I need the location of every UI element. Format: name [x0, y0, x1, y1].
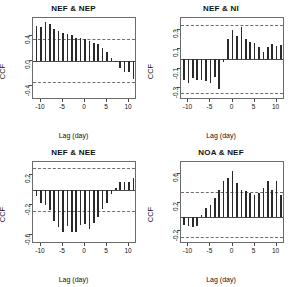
ccf-bar	[205, 59, 207, 81]
ccf-bar	[71, 35, 73, 61]
x-axis-label: Lag (day)	[148, 132, 295, 139]
ccf-bar	[89, 41, 91, 61]
y-axis-tick-label: -0.2	[152, 226, 176, 234]
y-axis-tick-label: 0.3	[152, 25, 176, 33]
ccf-bar	[196, 217, 198, 226]
ccf-bar	[67, 34, 69, 60]
ccf-bar	[58, 31, 60, 61]
plot-area	[32, 17, 136, 99]
ccf-bar	[196, 59, 198, 80]
ccf-bar	[45, 190, 47, 206]
x-axis-tick-label: 10	[118, 103, 138, 110]
ccf-bar	[45, 22, 47, 61]
x-axis-tick	[62, 99, 63, 102]
x-axis-tick-label: 5	[96, 103, 116, 110]
x-axis-tick	[276, 243, 277, 246]
y-axis-tick-label: 0.4	[4, 31, 28, 39]
ccf-bar	[84, 39, 86, 61]
bar-series	[33, 162, 135, 242]
y-axis-tick-label: -0.2	[4, 200, 28, 208]
x-axis-tick	[84, 99, 85, 102]
x-axis-tick-label: -5	[52, 103, 72, 110]
ccf-bar	[236, 183, 238, 216]
ccf-bar	[53, 190, 55, 221]
x-axis-tick-label: -10	[177, 247, 197, 254]
panel-title: NEF & NI	[148, 4, 295, 13]
plot-area	[180, 17, 284, 99]
ccf-bar	[267, 47, 269, 59]
x-axis-tick	[106, 243, 107, 246]
ccf-bar	[241, 27, 243, 59]
ccf-bar	[133, 61, 135, 79]
ccf-bar	[276, 181, 278, 216]
confidence-bound-line	[181, 25, 283, 26]
ccf-bar	[249, 42, 251, 59]
ccf-bar	[183, 217, 185, 225]
panel-nef-nee: NEF & NEE CCF -0.6-0.20.2 -10-50510 Lag …	[0, 144, 147, 287]
ccf-bar	[267, 181, 269, 217]
ccf-bar	[128, 61, 130, 72]
ccf-bar	[280, 195, 282, 216]
ccf-bar	[40, 27, 42, 60]
ccf-bar	[236, 36, 238, 59]
ccf-bar	[75, 38, 77, 61]
ccf-bar	[128, 182, 130, 190]
x-axis-tick	[254, 99, 255, 102]
ccf-bar	[75, 190, 77, 232]
ccf-bar	[93, 43, 95, 61]
ccf-bar	[67, 190, 69, 227]
ccf-bar	[249, 193, 251, 216]
x-axis-tick	[40, 243, 41, 246]
ccf-bar	[89, 190, 91, 230]
x-axis-tick-label: 5	[244, 103, 264, 110]
ccf-bar	[201, 59, 203, 80]
x-axis-tick	[187, 99, 188, 102]
ccf-bar	[36, 26, 38, 61]
x-axis-tick-label: -10	[30, 103, 50, 110]
confidence-bound-line	[33, 82, 135, 83]
x-axis-label: Lag (day)	[148, 276, 295, 283]
ccf-bar	[263, 52, 265, 59]
y-axis-tick-label: 0.6	[152, 169, 176, 177]
ccf-bar	[36, 190, 38, 196]
ccf-bar	[245, 191, 247, 216]
ccf-bar	[223, 181, 225, 216]
ccf-bar	[254, 43, 256, 59]
ccf-bar	[201, 215, 203, 217]
ccf-bar	[102, 48, 104, 61]
x-axis-tick	[254, 243, 255, 246]
ccf-bar	[218, 190, 220, 216]
ccf-bar	[218, 59, 220, 89]
ccf-bar	[53, 29, 55, 61]
x-axis-tick-label: 10	[118, 247, 138, 254]
x-axis-tick-label: 0	[74, 247, 94, 254]
ccf-bar	[241, 190, 243, 217]
x-axis-tick	[128, 99, 129, 102]
ccf-bar	[276, 46, 278, 59]
x-axis-tick	[106, 99, 107, 102]
ccf-bar	[58, 190, 60, 227]
bar-series	[181, 162, 283, 242]
plot-area	[32, 161, 136, 243]
x-axis-tick-label: 5	[96, 247, 116, 254]
x-axis-tick	[62, 243, 63, 246]
ccf-bar	[280, 45, 282, 59]
confidence-bound-line	[33, 168, 135, 169]
ccf-bar	[40, 190, 42, 203]
ccf-bar	[93, 190, 95, 223]
ccf-bar	[214, 59, 216, 77]
confidence-bound-line	[181, 237, 283, 238]
ccf-bar	[97, 190, 99, 217]
x-axis-tick-label: 0	[74, 103, 94, 110]
ccf-bar	[97, 44, 99, 61]
ccf-bar	[124, 182, 126, 190]
x-axis-tick-label: 5	[244, 247, 264, 254]
panel-title: NOA & NEF	[148, 148, 295, 157]
x-axis-tick-label: 0	[222, 247, 242, 254]
x-axis-tick	[209, 99, 210, 102]
ccf-bar	[258, 193, 260, 216]
bar-series	[181, 18, 283, 98]
ccf-bar	[183, 59, 185, 80]
ccf-bar	[124, 61, 126, 72]
ccf-bar	[49, 24, 51, 61]
